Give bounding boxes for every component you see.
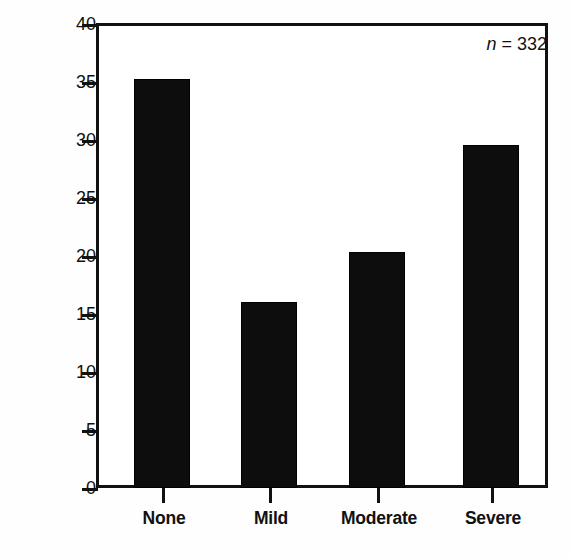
bar-moderate xyxy=(349,252,405,488)
y-tick-label-30: 30 xyxy=(52,130,96,151)
bar-severe xyxy=(463,145,519,488)
bar-mild xyxy=(241,302,297,488)
x-tick-mark-mild xyxy=(269,488,272,503)
y-tick-label-5: 5 xyxy=(52,420,96,441)
y-tick-label-10: 10 xyxy=(52,362,96,383)
y-tick-label-40: 40 xyxy=(52,14,96,35)
x-tick-label-mild: Mild xyxy=(254,508,288,529)
x-tick-mark-severe xyxy=(491,488,494,503)
y-axis-title: Percent of total xyxy=(0,0,36,559)
y-tick-label-15: 15 xyxy=(52,304,96,325)
x-tick-label-moderate: Moderate xyxy=(341,508,417,529)
y-tick-label-0: 0 xyxy=(52,478,96,499)
bar-none xyxy=(134,79,190,488)
x-tick-label-severe: Severe xyxy=(465,508,521,529)
y-tick-label-20: 20 xyxy=(52,246,96,267)
y-tick-label-35: 35 xyxy=(52,72,96,93)
sample-size-value: = 332 xyxy=(496,34,547,54)
bars-layer xyxy=(96,23,548,488)
x-tick-label-none: None xyxy=(143,508,186,529)
sample-size-annotation: n = 332 xyxy=(486,34,547,55)
bar-chart-figure: Percent of total 0 5 10 15 20 25 3 xyxy=(0,0,571,559)
sample-size-symbol: n xyxy=(486,34,496,54)
x-tick-mark-moderate xyxy=(377,488,380,503)
x-tick-mark-none xyxy=(162,488,165,503)
y-tick-label-25: 25 xyxy=(52,188,96,209)
